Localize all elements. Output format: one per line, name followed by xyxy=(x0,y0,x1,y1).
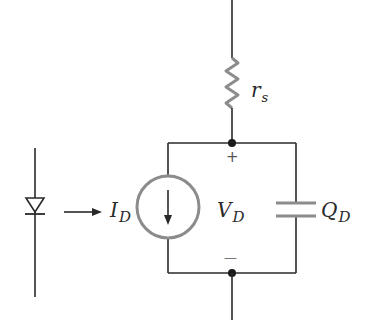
capacitor-icon xyxy=(276,203,316,216)
charge-label: QD xyxy=(321,200,350,220)
resistor-label: rs xyxy=(251,80,268,100)
voltage-label-main: V xyxy=(217,198,231,222)
current-source-icon xyxy=(137,176,199,238)
plus-sign: + xyxy=(226,150,239,165)
right-arrow-icon xyxy=(64,208,102,216)
resistor-label-main: r xyxy=(251,78,261,102)
resistor-icon xyxy=(226,58,238,108)
minus-sign: — xyxy=(224,251,237,264)
top-node-dot xyxy=(228,139,236,147)
charge-label-main: Q xyxy=(321,198,337,222)
current-label-sub: D xyxy=(119,208,131,226)
circuit-diagram xyxy=(0,0,370,331)
resistor-label-sub: s xyxy=(262,90,269,105)
current-label-main: I xyxy=(110,198,118,222)
current-label: ID xyxy=(110,200,131,220)
voltage-label: VD xyxy=(217,200,244,220)
charge-label-sub: D xyxy=(338,208,350,226)
diode-icon xyxy=(25,148,45,297)
voltage-label-sub: D xyxy=(232,208,244,226)
